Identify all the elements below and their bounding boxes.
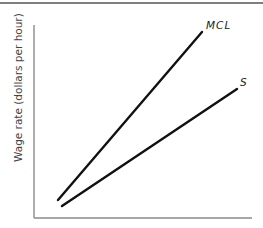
s-label: S [240,76,248,88]
y-axis-label: Wage rate (dollars per hour) [12,13,24,162]
supply-curve [62,89,237,206]
chart: Wage rate (dollars per hour) MCL S [0,0,263,228]
mcl-curve [58,32,202,200]
mcl-label: MCL [206,19,231,31]
